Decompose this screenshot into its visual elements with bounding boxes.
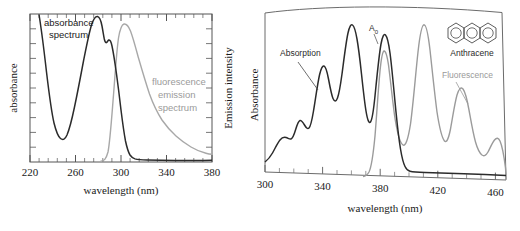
right-plot-frame — [265, 7, 506, 180]
absorbance-spectrum-label-line2: spectrum — [49, 29, 88, 40]
anthracene-label: Anthracene — [450, 48, 494, 58]
absorption-leader-line — [298, 62, 318, 90]
right-xtick-340: 340 — [314, 180, 331, 192]
anthracene-structure-icon — [448, 23, 496, 43]
absorption-label: Absorption — [280, 48, 321, 58]
left-xtick-260: 260 — [67, 166, 84, 178]
left-panel-svg: 220 260 300 340 380 wavelength (nm) abso… — [0, 0, 250, 231]
right-x-axis-title: wavelength (nm) — [348, 202, 423, 215]
right-xtick-300: 300 — [257, 178, 274, 190]
right-xtick-420: 420 — [430, 184, 447, 196]
left-x-axis-title: wavelength (nm) — [84, 184, 159, 197]
absorbance-spectrum-label-line1: absorbance — [44, 17, 94, 28]
left-y-ticks — [30, 29, 212, 147]
left-secondary-y-axis-title: Emission intensity — [222, 47, 234, 129]
left-y-axis-title: absorbance — [7, 63, 19, 113]
right-panel-svg: Absorption Fluorescence A0 Anthracene 30… — [250, 0, 520, 231]
left-xtick-340: 340 — [158, 166, 175, 178]
fluorescence-spectrum-label-line2: emission — [158, 89, 196, 100]
right-x-major-ticks — [265, 165, 495, 180]
left-panel-absorbance-fluorescence: 220 260 300 340 380 wavelength (nm) abso… — [0, 0, 250, 231]
right-x-axis-line — [265, 172, 506, 180]
left-xtick-380: 380 — [204, 166, 221, 178]
right-panel-anthracene-spectra: Absorption Fluorescence A0 Anthracene 30… — [250, 0, 520, 231]
right-xtick-380: 380 — [372, 182, 389, 194]
right-xtick-460: 460 — [487, 186, 504, 198]
origin-band-label: A0 — [369, 23, 379, 35]
two-panel-spectra-figure: 220 260 300 340 380 wavelength (nm) abso… — [0, 0, 520, 231]
left-xtick-300: 300 — [113, 166, 130, 178]
fluorescence-spectrum-label-line1: fluorescence — [152, 76, 206, 87]
left-xtick-220: 220 — [22, 166, 39, 178]
origin-band-leader-line — [374, 34, 378, 44]
fluorescence-label: Fluorescence — [442, 70, 493, 80]
fluorescence-spectrum-label-line3: spectrum — [158, 102, 197, 113]
right-y-axis-title: Absorbance — [250, 69, 260, 122]
